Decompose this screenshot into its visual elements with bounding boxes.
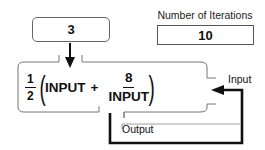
close-paren: ) xyxy=(148,70,154,104)
formula: 1 2 ( INPUT + 8 INPUT ) xyxy=(25,67,154,107)
fraction-denominator: INPUT xyxy=(108,88,149,104)
coefficient-denominator: 2 xyxy=(27,88,34,102)
input-label: Input xyxy=(228,73,251,85)
iterations-box[interactable]: 10 xyxy=(157,25,254,45)
formula-term-input: INPUT xyxy=(45,80,86,95)
iterations-label: Number of Iterations xyxy=(150,9,260,21)
formula-fraction: 8 INPUT xyxy=(108,71,149,103)
left-arrow-icon xyxy=(211,85,224,95)
fraction-numerator: 8 xyxy=(123,71,135,88)
iterations-value: 10 xyxy=(198,28,212,43)
formula-operator: + xyxy=(91,80,99,95)
input-value-box[interactable]: 3 xyxy=(32,17,110,42)
output-label: Output xyxy=(122,123,154,135)
input-value: 3 xyxy=(67,22,74,37)
coefficient-numerator: 1 xyxy=(25,73,36,88)
open-paren: ( xyxy=(39,70,45,104)
coefficient-fraction: 1 2 xyxy=(25,73,36,102)
